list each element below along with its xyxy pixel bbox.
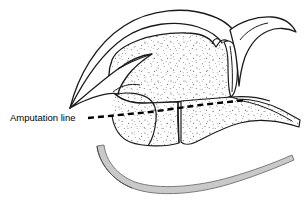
anatomical-figure: Amputation line <box>0 0 308 210</box>
amputation-line-label: Amputation line <box>10 112 75 123</box>
